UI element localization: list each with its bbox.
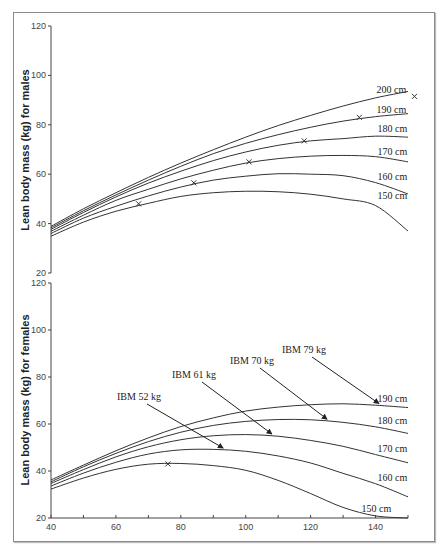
x-tick-label: 120 [303,522,318,532]
y-tick-label: 60 [36,169,46,179]
y-tick-label: 60 [36,419,46,429]
ibm-annotation-label: IBM 61 kg [172,369,216,380]
curve-190-cm [51,404,408,480]
y-tick-label: 80 [36,372,46,382]
x-tick-label: 140 [368,522,383,532]
series-label: 190 cm [377,104,407,115]
series-label: 160 cm [378,472,408,483]
ibm-marker [302,138,307,143]
series-label: 150 cm [378,190,408,201]
ibm-annotation-arrow [312,357,379,403]
series-label: 170 cm [378,146,408,157]
female-y-axis-label: Lean body mass (kg) for females [19,314,31,485]
lean-body-mass-figure: Lean body mass (kg) for males 1201008060… [0,0,442,549]
series-label: 160 cm [378,171,408,182]
y-tick-label: 20 [36,268,46,278]
ibm-marker [165,461,170,466]
curve-170-cm [51,435,408,484]
y-tick-label: 40 [36,219,46,229]
curve-160-cm [51,449,408,497]
curve-180-cm [51,136,408,229]
series-label: 180 cm [378,123,408,134]
y-tick-label: 40 [36,466,46,476]
y-tick-label: 20 [36,513,46,523]
series-label: 200 cm [377,84,407,95]
curve-150-cm [51,463,408,518]
y-tick-label: 100 [31,70,46,80]
x-tick-label: 60 [111,522,121,532]
x-tick-label: 80 [176,522,186,532]
series-label: 170 cm [378,443,408,454]
ibm-annotation-label: IBM 79 kg [282,344,326,355]
y-tick-label: 120 [31,278,46,288]
x-tick-label: 40 [46,522,56,532]
y-tick-label: 80 [36,120,46,130]
series-label: 180 cm [378,415,408,426]
ibm-marker [191,180,196,185]
ibm-annotation-arrow [202,382,272,434]
curve-170-cm [51,155,408,231]
male-y-axis-label: Lean body mass (kg) for males [19,69,31,230]
female-panel: Lean body mass (kg) for females 12010080… [19,278,408,532]
y-tick-label: 100 [31,325,46,335]
ibm-annotation-arrow [260,368,327,419]
x-tick-label: 100 [238,522,253,532]
curve-160-cm [51,174,408,234]
y-tick-label: 120 [31,21,46,31]
ibm-annotation-label: IBM 70 kg [230,355,274,366]
series-label: 150 cm [362,503,392,514]
male-panel: Lean body mass (kg) for males 1201008060… [19,21,417,278]
ibm-annotation-label: IBM 52 kg [117,391,161,402]
series-label: 190 cm [378,393,408,404]
ibm-marker [412,94,417,99]
curve-200-cm [51,91,408,226]
